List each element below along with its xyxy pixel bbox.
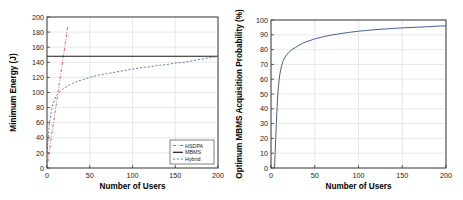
- left-xtick-200: 200: [212, 171, 224, 180]
- right-ytick-30: 30: [260, 119, 268, 128]
- legend-label-mbms: MBMS: [185, 149, 202, 155]
- right-ytick-20: 20: [260, 134, 268, 143]
- right-ytick-60: 60: [260, 75, 268, 84]
- right-xtick-100: 100: [353, 171, 365, 180]
- left-xaxis-title: Number of Users: [100, 182, 166, 191]
- right-ytick-100: 100: [256, 16, 268, 25]
- left-ytick-120: 120: [32, 73, 44, 82]
- right-ytick-10: 10: [260, 149, 268, 158]
- left-ytick-180: 180: [32, 28, 44, 37]
- left-xtick-100: 100: [127, 171, 139, 180]
- series-optimum-mbms-probability: [275, 26, 447, 168]
- left-legend[interactable]: HSDPA MBMS Hybrid: [170, 140, 214, 164]
- right-ytick-50: 50: [260, 90, 268, 99]
- right-xtick-150: 150: [396, 171, 408, 180]
- left-ytick-160: 160: [32, 43, 44, 52]
- left-xtick-50: 50: [86, 171, 94, 180]
- left-chart-svg: 0 20 40 60 80 100 120 140 160 180 200 0 …: [0, 0, 231, 200]
- left-ytick-20: 20: [36, 149, 44, 158]
- left-ytick-0: 0: [40, 164, 44, 173]
- legend-label-hsdpa: HSDPA: [185, 143, 204, 149]
- left-xtick-150: 150: [169, 171, 181, 180]
- chart-panel-right: 0 10 20 30 40 50 60 70 80 90 100 0 50 10…: [231, 0, 462, 200]
- right-ytick-40: 40: [260, 104, 268, 113]
- left-yaxis-title: Minimum Energy (J): [9, 53, 18, 132]
- right-chart-svg: 0 10 20 30 40 50 60 70 80 90 100 0 50 10…: [231, 0, 463, 200]
- right-yaxis-title: Optimum MBMS Acquisition Probability (%): [235, 9, 244, 179]
- left-ytick-140: 140: [32, 58, 44, 67]
- right-ytick-0: 0: [264, 164, 268, 173]
- right-ytick-90: 90: [260, 30, 268, 39]
- left-ytick-40: 40: [36, 133, 44, 142]
- right-ytick-80: 80: [260, 45, 268, 54]
- right-xtick-50: 50: [311, 171, 319, 180]
- chart-panel-left: 0 20 40 60 80 100 120 140 160 180 200 0 …: [0, 0, 231, 200]
- left-ytick-200: 200: [32, 13, 44, 22]
- left-xtick-0: 0: [45, 171, 49, 180]
- right-grid: [271, 20, 446, 168]
- right-ytick-70: 70: [260, 60, 268, 69]
- right-xaxis-title: Number of Users: [326, 182, 392, 191]
- left-ytick-100: 100: [32, 88, 44, 97]
- figure-root: 0 20 40 60 80 100 120 140 160 180 200 0 …: [0, 0, 463, 200]
- legend-label-hybrid: Hybrid: [185, 156, 201, 162]
- left-ytick-60: 60: [36, 118, 44, 127]
- right-xtick-200: 200: [440, 171, 452, 180]
- right-xtick-0: 0: [269, 171, 273, 180]
- left-ytick-80: 80: [36, 103, 44, 112]
